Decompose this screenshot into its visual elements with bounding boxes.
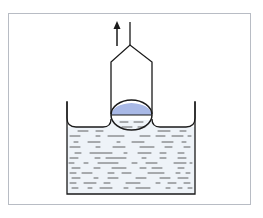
diagram xyxy=(0,0,263,218)
diagram-canvas xyxy=(0,0,263,218)
